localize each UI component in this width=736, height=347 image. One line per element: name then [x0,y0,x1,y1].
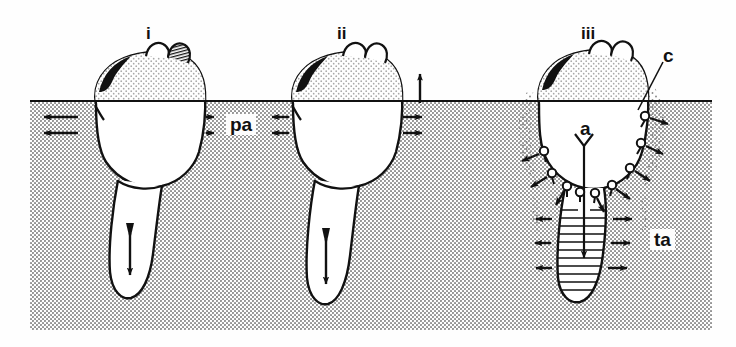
annotation-pa: pa [226,114,256,135]
bivalve-burrowing-diagram [0,0,736,347]
siphon-left-ii [343,43,366,58]
annotation-ta: ta [650,229,675,250]
siphon-left-iii [589,41,612,56]
panel-label-ii: ii [337,25,346,42]
panel-label-iii: iii [581,25,595,42]
annotation-c: c [663,46,674,65]
siphon-left-i [146,43,169,58]
panel-label-i: i [146,25,151,42]
annotation-a: a [580,119,591,138]
figure-canvas: i ii iii pa c a ta [0,0,736,347]
